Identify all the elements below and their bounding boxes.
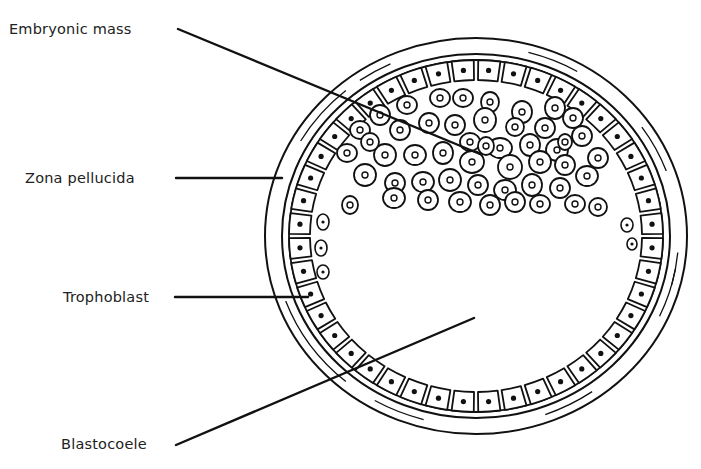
trophoblast-nucleus bbox=[579, 366, 584, 371]
trophoblast-nucleus bbox=[436, 71, 441, 76]
embryonic-nucleus bbox=[487, 202, 493, 208]
embryonic-nucleus bbox=[426, 120, 432, 126]
embryonic-nucleus bbox=[469, 159, 475, 165]
trophoblast-nucleus bbox=[318, 154, 323, 159]
embryonic-nucleus bbox=[482, 117, 488, 123]
embryonic-nucleus bbox=[447, 177, 453, 183]
embryonic-nucleus bbox=[397, 127, 403, 133]
cavity-cell-nucleus bbox=[630, 242, 633, 245]
blastocoele-cavity-cells bbox=[315, 214, 637, 279]
zona-pellucida bbox=[265, 38, 687, 434]
trophoblast-nucleus bbox=[639, 291, 644, 296]
trophoblast-nucleus bbox=[511, 396, 516, 401]
cavity-cell-nucleus bbox=[321, 220, 324, 223]
embryonic-nucleus bbox=[452, 122, 458, 128]
trophoblast-nucleus bbox=[558, 88, 563, 93]
embryonic-nucleus bbox=[362, 172, 368, 178]
embryonic-nucleus bbox=[425, 197, 431, 203]
embryonic-nucleus bbox=[391, 195, 397, 201]
embryonic-nucleus bbox=[404, 102, 410, 108]
trophoblast-nucleus bbox=[318, 313, 323, 318]
embryonic-nucleus bbox=[502, 187, 508, 193]
trophoblast-nucleus bbox=[436, 396, 441, 401]
cavity-cell-nucleus bbox=[625, 223, 628, 226]
embryonic-nucleus bbox=[542, 125, 548, 131]
embryonic-nucleus bbox=[344, 150, 350, 156]
trophoblast-nucleus bbox=[461, 68, 466, 73]
embryonic-nucleus bbox=[537, 201, 543, 207]
embryonic-nucleus bbox=[552, 105, 558, 111]
embryonic-nucleus bbox=[392, 180, 398, 186]
embryonic-nucleus bbox=[512, 124, 518, 130]
embryonic-nucleus bbox=[557, 185, 563, 191]
trophoblast-nucleus bbox=[301, 269, 306, 274]
embryonic-nucleus bbox=[537, 159, 543, 165]
embryonic-nucleus bbox=[382, 152, 388, 158]
trophoblast-nucleus bbox=[412, 389, 417, 394]
trophoblast-nucleus bbox=[486, 399, 491, 404]
embryonic-nucleus bbox=[497, 145, 503, 151]
embryonic-nucleus bbox=[412, 152, 418, 158]
embryonic-nucleus bbox=[460, 95, 466, 101]
trophoblast-nucleus bbox=[368, 101, 373, 106]
embryonic-nucleus bbox=[483, 143, 489, 149]
embryonic-nucleus bbox=[562, 139, 568, 145]
cavity-cell-nucleus bbox=[319, 246, 322, 249]
zona-outer-boundary bbox=[265, 38, 687, 434]
zona-hatch-line bbox=[672, 253, 678, 286]
trophoblast-nucleus bbox=[486, 68, 491, 73]
embryonic-nucleus bbox=[475, 182, 481, 188]
embryonic-nucleus bbox=[584, 173, 590, 179]
trophoblast-nucleus bbox=[649, 222, 654, 227]
trophoblast-nucleus bbox=[412, 78, 417, 83]
label-zona-pellucida: Zona pellucida bbox=[25, 171, 135, 186]
trophoblast-nucleus bbox=[646, 269, 651, 274]
trophoblast-nucleus bbox=[628, 154, 633, 159]
embryonic-nucleus bbox=[367, 139, 373, 145]
trophoblast-nucleus bbox=[558, 379, 563, 384]
trophoblast-nucleus bbox=[349, 351, 354, 356]
trophoblast-nucleus bbox=[389, 88, 394, 93]
trophoblast-nucleus bbox=[368, 366, 373, 371]
embryonic-nucleus bbox=[562, 162, 568, 168]
trophoblast-nucleus bbox=[535, 78, 540, 83]
embryonic-nucleus bbox=[457, 199, 463, 205]
embryonic-nucleus bbox=[487, 99, 493, 105]
trophoblast-nucleus bbox=[579, 101, 584, 106]
zona-inner-boundary bbox=[282, 54, 670, 418]
zona-hatch-line bbox=[360, 64, 391, 81]
trophoblast-nucleus bbox=[615, 333, 620, 338]
embryonic-nucleus bbox=[570, 115, 576, 121]
embryonic-nucleus bbox=[519, 109, 525, 115]
trophoblast-nucleus bbox=[308, 175, 313, 180]
trophoblast-nucleus bbox=[628, 313, 633, 318]
embryonic-nucleus bbox=[512, 199, 518, 205]
embryonic-nucleus bbox=[595, 204, 601, 210]
trophoblast-nucleus bbox=[297, 245, 302, 250]
embryonic-nucleus bbox=[420, 179, 426, 185]
embryonic-nucleus bbox=[527, 142, 533, 148]
trophoblast-nucleus bbox=[308, 291, 313, 296]
embryonic-nucleus bbox=[507, 164, 513, 170]
trophoblast-nucleus bbox=[615, 134, 620, 139]
embryonic-nucleus bbox=[595, 155, 601, 161]
trophoblast-nucleus bbox=[349, 116, 354, 121]
embryonic-nucleus bbox=[579, 133, 585, 139]
embryonic-nucleus bbox=[529, 182, 535, 188]
trophoblast-nucleus bbox=[332, 333, 337, 338]
trophoblast-nucleus bbox=[461, 399, 466, 404]
trophoblast-nucleus bbox=[301, 198, 306, 203]
blastocyst-diagram bbox=[0, 0, 701, 469]
label-trophoblast: Trophoblast bbox=[63, 290, 149, 305]
trophoblast-nucleus bbox=[332, 134, 337, 139]
trophoblast-nucleus bbox=[535, 389, 540, 394]
trophoblast-nucleus bbox=[649, 245, 654, 250]
label-blastocoele: Blastocoele bbox=[61, 437, 147, 452]
label-embryonic-mass: Embryonic mass bbox=[9, 22, 132, 37]
trophoblast-nucleus bbox=[297, 222, 302, 227]
embryonic-nucleus bbox=[437, 95, 443, 101]
trophoblast-nucleus bbox=[511, 71, 516, 76]
trophoblast-nucleus bbox=[598, 351, 603, 356]
trophoblast-nucleus bbox=[389, 379, 394, 384]
embryonic-nucleus bbox=[347, 202, 353, 208]
